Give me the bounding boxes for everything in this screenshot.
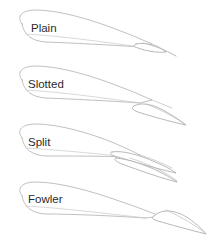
airfoil-group-plain: Plain [20,10,176,56]
flap-fowler [152,211,206,234]
flap-label-plain: Plain [31,22,57,34]
flap-label-split: Split [28,136,51,148]
flap-label-slotted: Slotted [28,78,64,90]
wing-flap-diagram-svg: Plain Slotted Split Fowler [0,0,208,236]
airfoil-group-slotted: Slotted [20,66,186,125]
airfoil-group-fowler: Fowler [20,182,206,234]
flap-types-diagram: Plain Slotted Split Fowler [0,0,208,236]
flap-slotted [132,104,186,125]
airfoil-group-split: Split [20,124,177,182]
flap-label-fowler: Fowler [28,193,63,205]
